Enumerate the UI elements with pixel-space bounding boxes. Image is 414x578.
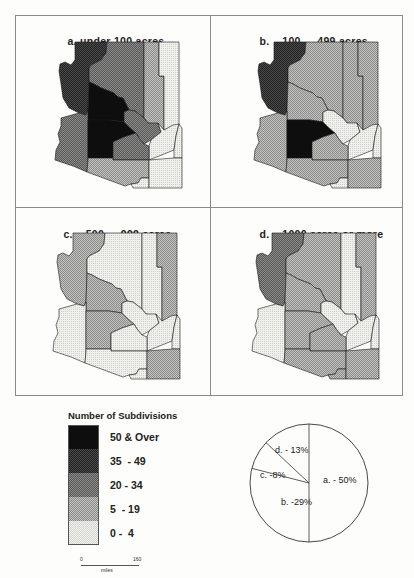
pie-label-b: b. -29% [281,497,312,507]
county-yuma [55,111,88,172]
scale-start: 0 [80,556,83,562]
map-panel-d [248,229,383,384]
map-panel-a [51,38,186,193]
legend-label-50-over: 50 & Over [110,431,159,443]
pie-label-c: c. -8% [260,470,286,480]
county-cochise [348,158,381,188]
legend-title: Number of Subdivisions [68,410,177,421]
scale-bar [81,565,139,566]
pie-label-a: a. - 50% [323,475,357,485]
map-panel-c [49,229,184,384]
legend-label-5-19: 5 - 19 [110,503,140,515]
scale-end: 160 [133,556,141,562]
legend-label-35-49: 35 - 49 [110,455,146,467]
legend-swatch-35-49 [68,449,99,473]
pie-label-d: d. - 13% [275,445,309,455]
legend-swatch-5-19 [68,497,99,521]
county-yuma [254,111,287,172]
legend-label-20-34: 20 - 34 [110,479,143,491]
legend-swatch-20-34 [68,473,99,497]
scale-unit: miles [101,567,113,573]
county-cochise [346,349,379,379]
panel-divider-vertical [210,15,211,396]
county-cochise [149,158,182,188]
county-cochise [147,349,180,379]
legend-swatch-50-over [68,425,99,449]
map-panel-b [250,38,385,193]
legend-label-0-4: 0 - 4 [110,527,134,539]
county-yuma [53,302,86,363]
county-yuma [252,302,285,363]
legend-swatch-0-4 [68,521,99,545]
panel-divider-horizontal [15,207,403,208]
